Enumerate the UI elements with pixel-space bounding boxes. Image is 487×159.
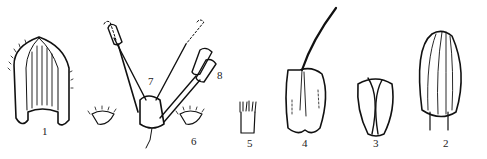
figure-1-lemma: [8, 37, 73, 125]
figure-2-floret: [420, 31, 462, 130]
label-part-6: 6: [191, 136, 197, 147]
label-part-4: 4: [302, 138, 308, 149]
label-part-5: 5: [247, 138, 253, 149]
label-part-8: 8: [217, 70, 223, 81]
figure-3-palea: [358, 78, 393, 136]
label-part-7: 7: [148, 76, 154, 87]
illustration: [0, 0, 487, 159]
figure-5-scale: [240, 101, 256, 133]
label-part-3: 3: [373, 138, 379, 149]
botanical-figure: 1 2 3 4 5 6 7 8: [0, 0, 487, 159]
label-part-1: 1: [42, 126, 48, 137]
label-part-2: 2: [443, 138, 449, 149]
figure-4-awned-lemma: [286, 8, 336, 133]
